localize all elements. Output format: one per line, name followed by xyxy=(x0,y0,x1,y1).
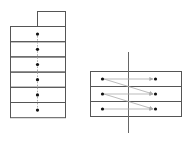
node-dot xyxy=(36,48,39,51)
source-dot xyxy=(101,107,104,110)
source-dot xyxy=(101,92,104,95)
node-dot xyxy=(36,63,39,66)
diagram-canvas xyxy=(0,0,189,141)
target-dot xyxy=(154,77,157,80)
top-tab-cell xyxy=(38,12,66,27)
right-stack xyxy=(91,52,182,133)
node-dot xyxy=(36,33,39,36)
target-dot xyxy=(154,92,157,95)
left-stack xyxy=(11,12,66,118)
source-dot xyxy=(101,77,104,80)
target-dot xyxy=(154,107,157,110)
node-dot xyxy=(36,93,39,96)
node-dot xyxy=(36,78,39,81)
node-dot xyxy=(36,109,39,112)
